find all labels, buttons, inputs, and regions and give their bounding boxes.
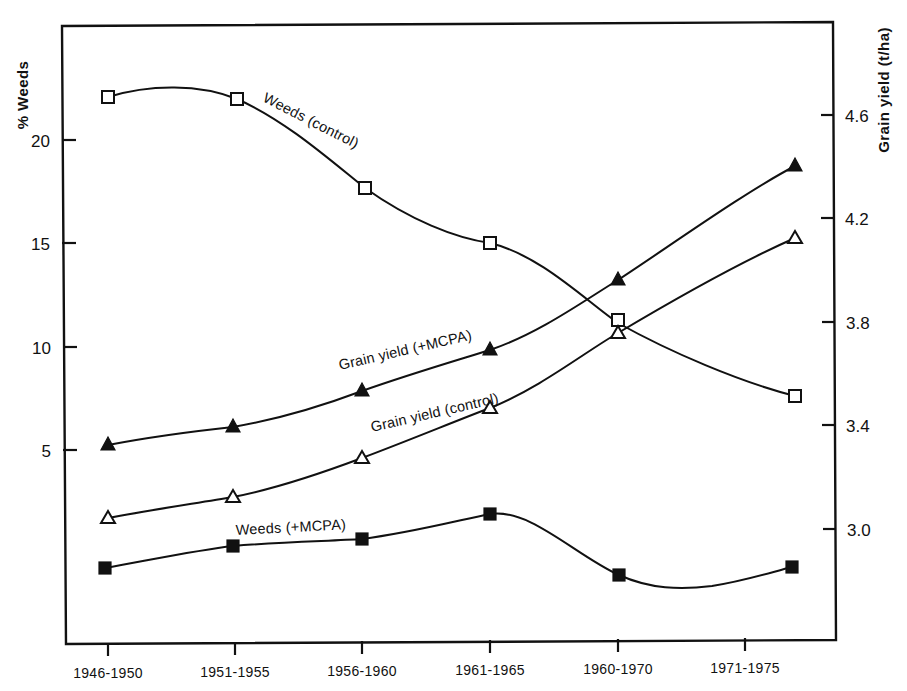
- right-tick-label-3-0: 3.0: [847, 521, 871, 540]
- chart-figure: 20 15 10 5 % Weeds 4.6 4.2 3.8 3.4 3.0 G…: [0, 0, 907, 691]
- data-point-marker: [789, 390, 801, 402]
- x-tick-label-2: 1956-1960: [327, 663, 397, 679]
- data-point-marker: [359, 182, 371, 194]
- x-tick-label-0: 1946-1950: [73, 665, 143, 681]
- data-point-marker: [484, 508, 496, 520]
- x-axis-tick-labels: 1946-1950 1951-1955 1956-1960 1961-1965 …: [73, 660, 780, 681]
- right-axis-title: Grain yield (t/ha): [875, 27, 892, 153]
- data-point-marker: [788, 231, 802, 243]
- right-axis-tick-labels: 4.6 4.2 3.8 3.4 3.0: [845, 107, 871, 540]
- data-point-marker: [613, 569, 625, 581]
- data-point-marker: [484, 237, 496, 249]
- right-tick-label-3-8: 3.8: [846, 314, 870, 333]
- series-label-grain-yield-mcpa: Grain yield (+MCPA): [337, 327, 473, 373]
- x-tick-label-4: 1960-1970: [583, 661, 653, 677]
- series-weeds-control: [102, 87, 801, 402]
- right-tick-label-3-4: 3.4: [846, 417, 870, 436]
- data-point-marker: [611, 326, 625, 338]
- right-tick-label-4-2: 4.2: [845, 210, 869, 229]
- x-tick-label-1: 1951-1955: [200, 664, 270, 680]
- data-point-marker: [788, 158, 802, 171]
- left-tick-label-20: 20: [31, 132, 50, 151]
- series-weeds-mcpa: [99, 508, 798, 588]
- data-point-marker: [611, 272, 625, 285]
- x-tick-label-5: 1971-1975: [710, 660, 780, 676]
- left-axis-tick-labels: 20 15 10 5: [31, 132, 51, 461]
- data-point-marker: [227, 540, 239, 552]
- left-tick-label-10: 10: [32, 339, 51, 358]
- data-point-marker: [102, 91, 114, 103]
- left-tick-label-15: 15: [31, 235, 50, 254]
- chart-canvas: 20 15 10 5 % Weeds 4.6 4.2 3.8 3.4 3.0 G…: [0, 0, 907, 691]
- left-axis-title: % Weeds: [14, 61, 31, 129]
- data-point-marker: [231, 93, 243, 105]
- right-tick-label-4-6: 4.6: [845, 107, 869, 126]
- data-point-marker: [356, 533, 368, 545]
- left-tick-label-5: 5: [42, 442, 51, 461]
- data-point-marker: [99, 562, 111, 574]
- data-point-marker: [786, 561, 798, 573]
- x-tick-label-3: 1961-1965: [455, 662, 525, 678]
- series-grain-yield-control: [101, 231, 802, 523]
- series-label-weeds-mcpa: Weeds (+MCPA): [235, 516, 346, 538]
